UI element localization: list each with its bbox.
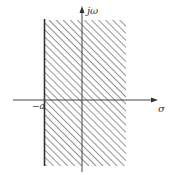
hatched-region bbox=[44, 20, 126, 166]
sigma-label: σ bbox=[158, 104, 165, 114]
s-plane-diagram bbox=[0, 0, 175, 175]
minus-a-label: −a bbox=[32, 101, 45, 111]
jomega-axis-arrow-icon bbox=[80, 6, 85, 13]
jomega-label: jω bbox=[87, 6, 98, 16]
sigma-axis-arrow-icon bbox=[151, 98, 158, 103]
